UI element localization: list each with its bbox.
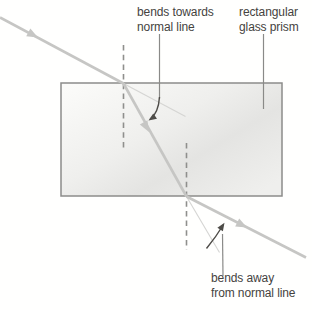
bend-arrow-exit-arrowhead: [217, 221, 227, 231]
emergent-ray-arrowhead: [235, 219, 249, 232]
label-bends-towards-normal: bends towards normal line: [137, 5, 214, 34]
label-bends-away-from-normal: bends away from normal line: [211, 271, 295, 300]
incident-ray-arrowhead: [26, 28, 40, 41]
label-rectangular-glass-prism: rectangular glass prism: [239, 5, 299, 34]
label-text: normal line: [137, 20, 214, 35]
label-text: glass prism: [239, 20, 299, 35]
label-text: rectangular: [239, 5, 299, 20]
incident-ray: [0, 18, 124, 84]
label-text: bends towards: [137, 5, 214, 20]
label-text: bends away: [211, 271, 295, 286]
diagram-canvas: [0, 0, 312, 310]
leader-line-bends-away: [223, 234, 224, 276]
label-text: from normal line: [211, 286, 295, 301]
refraction-figure: bends towards normal line rectangular gl…: [0, 0, 312, 310]
glass-prism: [61, 83, 282, 196]
